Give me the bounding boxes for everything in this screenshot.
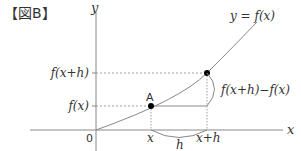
fx-label: f(x) — [67, 99, 89, 113]
xh-tick-label: x+h — [196, 131, 221, 145]
difference-label: f(x+h)−f(x) — [220, 83, 290, 97]
diagram-canvas: 【図B】 y x 0 y = f(x) f(x+h) f(x) A f(x+h)… — [0, 0, 301, 151]
curve-label: y = f(x) — [229, 9, 275, 23]
function-curve — [96, 22, 257, 130]
x-tick-label: x — [147, 131, 154, 145]
fxh-label: f(x+h) — [50, 66, 90, 80]
origin-label: 0 — [86, 132, 93, 145]
x-axis-label: x — [287, 122, 295, 137]
point-a-label: A — [146, 91, 154, 104]
y-axis-label: y — [90, 0, 99, 15]
figure-label: 【図B】 — [4, 5, 56, 21]
h-label: h — [176, 138, 184, 151]
difference-brace — [207, 73, 215, 106]
